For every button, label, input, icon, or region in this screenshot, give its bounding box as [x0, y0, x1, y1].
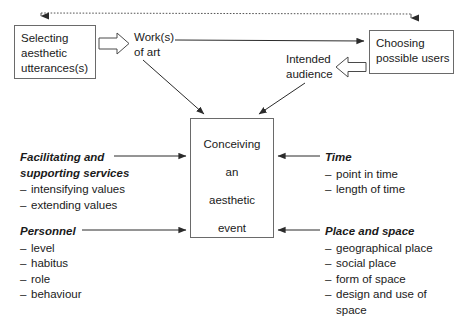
node-line: Choosing	[376, 36, 453, 51]
node-line: of art	[134, 45, 174, 60]
arrow-works-to-conceiving	[143, 60, 204, 114]
node-selecting-aesthetic-utterances: Selecting aesthetic utterances(s)	[14, 25, 96, 79]
block-arrow-choosing-to-audience	[336, 57, 366, 77]
arrow-audience-to-conceiving	[259, 83, 305, 114]
node-works-of-art: Work(s) of art	[134, 30, 174, 60]
list-item: habitus	[20, 256, 82, 272]
node-choosing-possible-users: Choosing possible users	[369, 30, 454, 74]
list-item: behaviour	[20, 287, 82, 303]
cluster-facilitating-and-supporting-services: Facilitating and supporting services int…	[20, 150, 129, 213]
node-conceiving-an-aesthetic-event: Conceiving an aesthetic event	[190, 118, 274, 238]
cluster-heading: Personnel	[20, 224, 82, 240]
block-arrow-selecting-to-works	[99, 33, 129, 54]
node-line: an	[191, 158, 273, 186]
list-item: geographical place	[325, 241, 433, 257]
list-item: social place	[325, 256, 433, 272]
cluster-heading: Time	[325, 150, 405, 166]
list-item: extending values	[20, 198, 129, 214]
list-item: point in time	[325, 167, 405, 183]
node-line: aesthetic	[191, 186, 273, 214]
cluster-place-and-space: Place and space geographical place socia…	[325, 224, 433, 318]
node-line: audience	[286, 67, 333, 82]
node-line: Work(s)	[134, 30, 174, 45]
list-item: intensifying values	[20, 182, 129, 198]
cluster-personnel: Personnel level habitus role behaviour	[20, 224, 82, 303]
list-item: form of space	[325, 272, 433, 288]
node-line: utterances(s)	[21, 61, 95, 76]
node-line: aesthetic	[21, 46, 95, 61]
cluster-item-list: point in time length of time	[325, 167, 405, 198]
list-item: role	[20, 272, 82, 288]
list-item: level	[20, 241, 82, 257]
cluster-heading: Place and space	[325, 224, 433, 240]
cluster-heading: Facilitating and	[20, 150, 129, 166]
cluster-item-list: geographical place social place form of …	[325, 241, 433, 319]
cluster-item-list: level habitus role behaviour	[20, 241, 82, 303]
node-line: Intended	[286, 52, 333, 67]
dotted-feedback-connector	[41, 13, 411, 18]
node-intended-audience: Intended audience	[286, 52, 333, 82]
node-line: Conceiving	[191, 130, 273, 158]
node-line: possible users	[376, 51, 453, 66]
cluster-item-list: intensifying values extending values	[20, 182, 129, 213]
list-item: design and use of space	[325, 287, 432, 318]
node-line: Selecting	[21, 31, 95, 46]
arrow-works-to-choosing	[175, 40, 364, 41]
cluster-heading: supporting services	[20, 166, 129, 182]
node-line: event	[191, 214, 273, 242]
list-item: length of time	[325, 182, 405, 198]
cluster-time: Time point in time length of time	[325, 150, 405, 198]
diagram-canvas: Selecting aesthetic utterances(s) Work(s…	[0, 0, 457, 327]
